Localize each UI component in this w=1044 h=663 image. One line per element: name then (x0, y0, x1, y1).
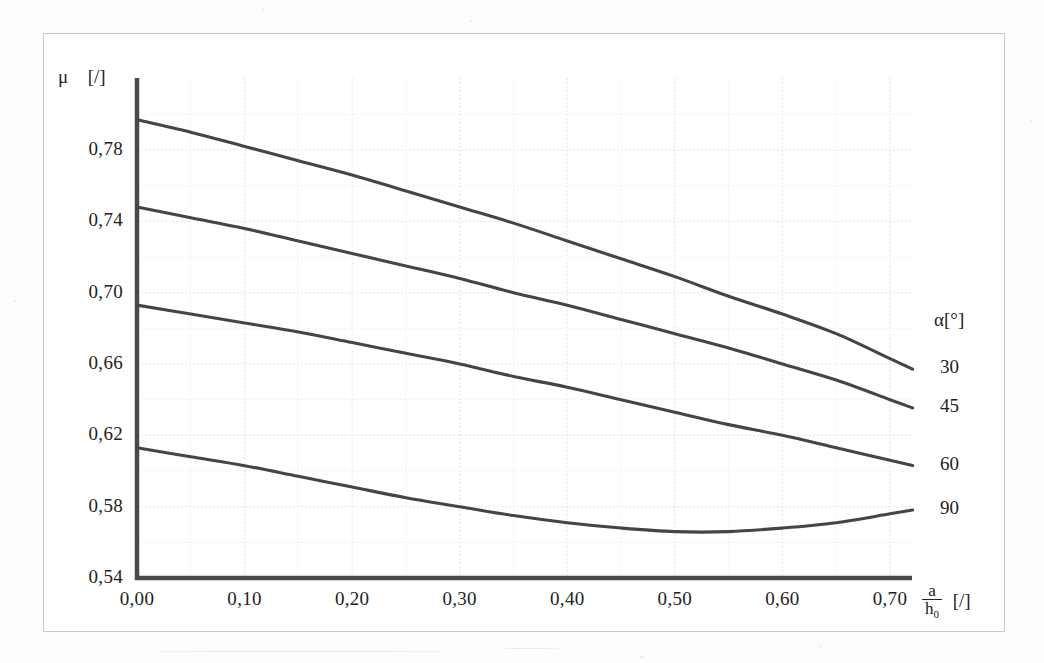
x-axis-tick-label: 0,20 (317, 588, 387, 610)
series-label-45: 45 (940, 395, 959, 417)
x-axis-tick-label: 0,70 (855, 588, 925, 610)
y-axis-tick-label: 0,58 (55, 495, 123, 517)
x-axis-unit: [/] (953, 590, 971, 612)
series-label-30: 30 (940, 356, 959, 378)
x-axis-tick-label: 0,00 (102, 588, 172, 610)
x-axis-title: a h0 [/] (922, 582, 971, 620)
data-curve (137, 305, 913, 465)
scan-artifact (1030, 120, 1032, 122)
y-axis-tick-label: 0,78 (55, 138, 123, 160)
figure-canvas: 0,540,580,620,660,700,740,78 0,000,100,2… (0, 0, 1044, 663)
scan-artifact (640, 656, 644, 658)
scan-artifact (500, 648, 560, 649)
y-axis-tick-label: 0,74 (55, 209, 123, 231)
x-axis-tick-label: 0,10 (210, 588, 280, 610)
scan-artifact (470, 20, 472, 22)
y-axis-tick-label: 0,66 (55, 352, 123, 374)
grid-minor-lines (137, 78, 912, 578)
legend-header: α[°] (934, 309, 964, 331)
y-axis-tick-label: 0,62 (55, 423, 123, 445)
scan-artifact (262, 9, 265, 11)
x-axis-tick-label: 0,60 (747, 588, 817, 610)
chart-plot-area (0, 0, 1044, 663)
x-axis-fraction: a h0 (922, 582, 942, 620)
y-axis-tick-label: 0,54 (55, 566, 123, 588)
data-curve (137, 120, 913, 369)
x-axis-tick-label: 0,50 (640, 588, 710, 610)
data-curves (137, 120, 913, 532)
series-label-90: 90 (940, 497, 959, 519)
scan-artifact (820, 646, 822, 648)
scan-artifact (14, 300, 16, 302)
x-axis-tick-label: 0,30 (425, 588, 495, 610)
y-axis-symbol: μ (58, 66, 68, 87)
x-axis-tick-label: 0,40 (532, 588, 602, 610)
scan-artifact (150, 651, 450, 652)
x-axis-denominator: h0 (922, 599, 942, 620)
data-curve (137, 448, 913, 532)
y-axis-title: μ [/] (58, 66, 106, 88)
y-axis-tick-label: 0,70 (55, 281, 123, 303)
x-axis-numerator: a (922, 582, 942, 599)
y-axis-unit: [/] (88, 66, 106, 87)
series-label-60: 60 (940, 453, 959, 475)
